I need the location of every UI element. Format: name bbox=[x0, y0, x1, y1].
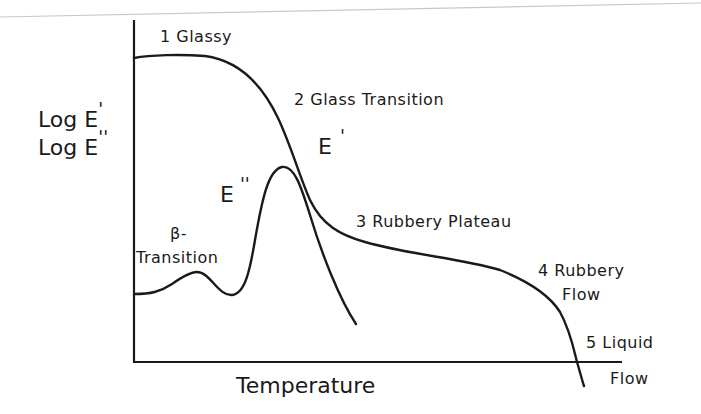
x-axis-label: Temperature bbox=[236, 373, 375, 398]
y-axis-label-text-2: Log E bbox=[38, 135, 98, 160]
region-glassy-label: 1 Glassy bbox=[160, 27, 232, 46]
region-liquid-flow-label-line1: 5 Liquid bbox=[586, 333, 654, 352]
storage-modulus-letter: E bbox=[318, 134, 332, 159]
region-liquid-flow-label-line2: Flow bbox=[610, 369, 649, 388]
prime-mark: ' bbox=[98, 98, 103, 119]
storage-modulus-prime: ' bbox=[340, 125, 345, 146]
region-rubbery-plateau-label: 3 Rubbery Plateau bbox=[356, 212, 512, 231]
double-prime-mark: '' bbox=[98, 126, 108, 147]
loss-modulus-letter: E bbox=[220, 182, 234, 207]
beta-transition-label-line2: Transition bbox=[136, 248, 218, 267]
storage-modulus-label: E' bbox=[318, 134, 337, 159]
y-axis-label-storage: Log E' bbox=[38, 106, 103, 135]
loss-modulus-label: E'' bbox=[220, 182, 244, 207]
y-axis-label-text-1: Log E bbox=[38, 107, 98, 132]
region-rubbery-flow-label-line2: Flow bbox=[562, 285, 601, 304]
top-rule bbox=[0, 3, 701, 17]
loss-modulus-prime: '' bbox=[240, 173, 250, 194]
beta-transition-label-line1: β- bbox=[170, 224, 187, 243]
region-glass-transition-label: 2 Glass Transition bbox=[294, 90, 444, 109]
y-axis-label-loss: Log E'' bbox=[38, 134, 108, 163]
region-rubbery-flow-label-line1: 4 Rubbery bbox=[538, 261, 625, 280]
